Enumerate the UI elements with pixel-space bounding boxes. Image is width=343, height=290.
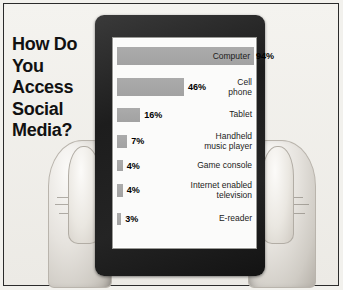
title-line-5: Media? <box>12 120 96 142</box>
bar <box>117 78 184 96</box>
bar <box>117 213 121 225</box>
bar-value-label: 46% <box>188 82 206 92</box>
poster: How Do You Access Social Media? Computer… <box>0 0 343 290</box>
bar-chart: Computer94%46%Cell phone16%Tablet7%Handh… <box>117 42 252 244</box>
title-line-4: Social <box>12 99 96 121</box>
chart-row: 4%Internet enabled television <box>117 177 252 203</box>
chart-row: 16%Tablet <box>117 104 252 126</box>
bar-category-label: Tablet <box>229 110 252 120</box>
bar <box>117 135 127 148</box>
chart-row: 7%Handheld music player <box>117 128 252 154</box>
tablet-screen: Computer94%46%Cell phone16%Tablet7%Handh… <box>112 37 257 249</box>
title-line-2: You <box>12 56 96 78</box>
chart-row: 46%Cell phone <box>117 72 252 102</box>
chart-row: 4%Game console <box>117 156 252 175</box>
bar-category-label: Computer <box>213 51 250 61</box>
chart-row: 3%E-reader <box>117 208 252 230</box>
bar-value-label: 4% <box>127 161 140 171</box>
page-title: How Do You Access Social Media? <box>12 34 96 142</box>
bar-value-label: 4% <box>127 185 140 195</box>
bar <box>117 160 123 171</box>
bar-category-label: Internet enabled television <box>191 181 252 200</box>
bar-category-label: Game console <box>197 161 252 171</box>
bar-category-label: Handheld music player <box>204 132 252 151</box>
tablet-device: Computer94%46%Cell phone16%Tablet7%Handh… <box>95 15 265 276</box>
bar-category-label: Cell phone <box>228 78 252 97</box>
title-line-1: How Do <box>12 34 96 56</box>
bar-value-label: 7% <box>131 136 144 146</box>
bar-value-label: 94% <box>256 51 274 61</box>
bar-category-label: E-reader <box>219 214 252 224</box>
right-thumb <box>262 146 294 244</box>
bar-value-label: 3% <box>125 214 138 224</box>
title-line-3: Access <box>12 77 96 99</box>
chart-row: Computer94% <box>117 44 252 68</box>
bar <box>117 108 140 122</box>
bar <box>117 184 123 197</box>
bar-value-label: 16% <box>144 110 162 120</box>
